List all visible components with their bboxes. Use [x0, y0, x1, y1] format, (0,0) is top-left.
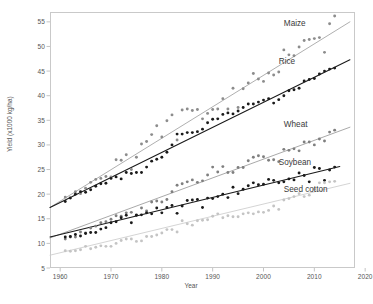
data-point [94, 231, 97, 234]
data-point [64, 236, 67, 239]
data-point [287, 177, 290, 180]
data-point [130, 211, 133, 214]
data-point [262, 99, 265, 102]
data-point [155, 200, 158, 203]
x-tick-label: 1970 [104, 273, 119, 280]
data-point [232, 171, 235, 174]
data-point [64, 200, 67, 203]
data-point [171, 143, 174, 146]
data-point [84, 187, 87, 190]
data-point [333, 166, 336, 169]
data-point [313, 37, 316, 40]
data-point [115, 158, 118, 161]
data-point [176, 184, 179, 187]
data-point [242, 106, 245, 109]
axis-ticks [47, 22, 366, 272]
y-tick-label: 50 [28, 43, 45, 50]
data-point [186, 108, 189, 111]
data-point [252, 212, 255, 215]
data-point [186, 131, 189, 134]
data-point [140, 171, 143, 174]
data-point [191, 224, 194, 227]
series-label-maize: Maize [284, 19, 306, 28]
data-point [272, 179, 275, 182]
data-point [196, 181, 199, 184]
data-point [277, 181, 280, 184]
data-point [191, 199, 194, 202]
data-point [242, 166, 245, 169]
data-point [257, 183, 260, 186]
data-point [196, 219, 199, 222]
data-point [64, 249, 67, 252]
y-tick-label: 25 [28, 166, 45, 173]
data-point [287, 89, 290, 92]
data-point [150, 133, 153, 136]
data-point [165, 228, 168, 231]
data-point [196, 198, 199, 201]
y-tick-label: 15 [28, 215, 45, 222]
data-point [287, 149, 290, 152]
data-point [318, 167, 321, 170]
data-point [171, 228, 174, 231]
data-point [125, 153, 128, 156]
data-point [84, 191, 87, 194]
data-point [303, 174, 306, 177]
data-point [201, 117, 204, 120]
data-point [318, 181, 321, 184]
data-point [282, 180, 285, 183]
data-point [150, 235, 153, 238]
data-point [226, 214, 229, 217]
data-point [328, 180, 331, 183]
data-point [79, 190, 82, 193]
data-point [155, 124, 158, 127]
data-point [298, 46, 301, 49]
data-point [110, 245, 113, 248]
data-point [298, 149, 301, 152]
data-point [262, 211, 265, 214]
data-point [232, 87, 235, 90]
data-point [191, 178, 194, 181]
data-point [120, 177, 123, 180]
data-point [160, 156, 163, 159]
data-point [115, 242, 118, 245]
data-point [232, 112, 235, 115]
x-tick-label: 1980 [154, 273, 169, 280]
data-point [232, 215, 235, 218]
data-point [293, 178, 296, 181]
data-point [206, 197, 209, 200]
series-label-seed-cotton: Seed cotton [284, 185, 328, 194]
series-label-wheat: Wheat [284, 120, 308, 129]
data-point [247, 159, 250, 162]
data-point [79, 231, 82, 234]
series-label-rice: Rice [279, 57, 296, 66]
trend-line-soybean [50, 167, 340, 237]
data-point [293, 195, 296, 198]
series-label-soybean: Soybean [279, 158, 312, 167]
data-point [211, 215, 214, 218]
data-point [64, 196, 67, 199]
trend-line-wheat [50, 127, 350, 238]
data-point [287, 197, 290, 200]
data-point [262, 183, 265, 186]
data-point [323, 140, 326, 143]
data-point [150, 212, 153, 215]
data-point [94, 178, 97, 181]
data-point [313, 143, 316, 146]
data-point [206, 218, 209, 221]
data-point [318, 138, 321, 141]
data-point [216, 108, 219, 111]
data-point [196, 130, 199, 133]
data-point [94, 246, 97, 249]
data-point [171, 113, 174, 116]
data-point [74, 233, 77, 236]
data-point [216, 117, 219, 120]
y-tick-label: 45 [28, 68, 45, 75]
data-point [237, 166, 240, 169]
data-point [89, 181, 92, 184]
trend-lines [50, 22, 350, 255]
data-point [226, 196, 229, 199]
data-point [130, 168, 133, 171]
data-point [262, 80, 265, 83]
data-point [221, 193, 224, 196]
data-point [216, 171, 219, 174]
